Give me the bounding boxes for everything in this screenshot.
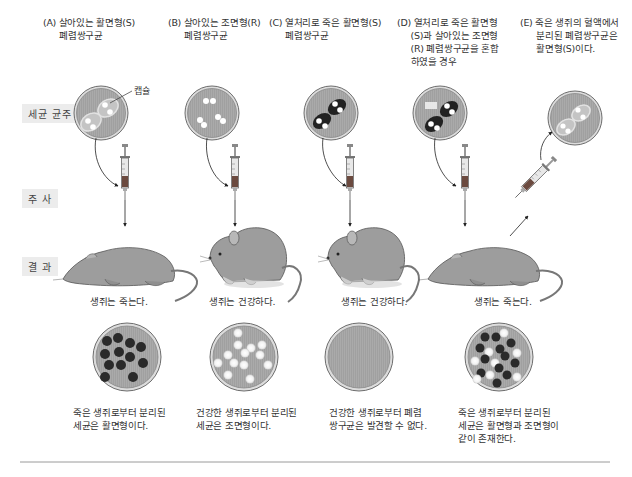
colony-plate-d xyxy=(413,86,467,140)
result-text-c: 생쥐는 건강하다. xyxy=(341,294,407,308)
result-text-b: 생쥐는 건강하다. xyxy=(209,294,275,308)
colony-plate-b xyxy=(185,86,239,140)
mouse-healthy-b xyxy=(200,228,301,302)
syringe-e xyxy=(512,154,559,201)
conclusion-b: 건강한 생쥐로부터 분리된 세균은 조면형이다. xyxy=(196,406,297,432)
conclusion-a: 죽은 생쥐로부터 분리된 세균은 활면형이다. xyxy=(73,406,165,432)
colony-plate-e xyxy=(548,91,602,145)
colony-plate-c xyxy=(304,86,358,140)
result-plate-a xyxy=(93,323,161,391)
colony-plate-a xyxy=(74,86,128,140)
result-plate-b xyxy=(210,323,278,391)
result-text-a: 생쥐는 죽는다. xyxy=(90,294,148,308)
conclusion-c: 건강한 생쥐로부터 폐렴 쌍구균은 발견할 수 없다. xyxy=(329,406,427,432)
mouse-dead-d xyxy=(418,248,562,301)
result-plate-d xyxy=(465,323,533,391)
mouse-healthy-c xyxy=(318,228,419,302)
conclusion-d: 죽은 생쥐로부터 분리된 세균은 활면형과 조면형이 같이 존재한다. xyxy=(458,406,559,445)
result-plate-c xyxy=(325,323,393,391)
result-text-d: 생쥐는 죽는다. xyxy=(474,294,532,308)
mouse-dead-a xyxy=(53,248,197,301)
